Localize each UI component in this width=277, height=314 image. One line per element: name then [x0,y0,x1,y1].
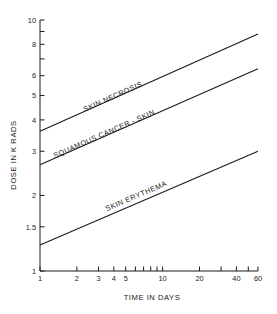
x-tick-label: 1 [38,274,42,283]
y-axis-title: DOSE IN K RADS [9,120,18,189]
series-label-2: SKIN ERYTHEMA [104,179,168,213]
x-axis-tick-labels: 1234510204060 [38,274,262,283]
x-axis-title: TIME IN DAYS [124,293,181,302]
y-tick-label: 10 [28,16,36,25]
y-tick-label: 2 [32,191,36,200]
y-tick-label: 8 [32,40,36,49]
series-labels: SKIN NECROSISSQUAMOUS CANCER - SKINSKIN … [52,79,168,213]
y-tick-label: 3 [32,147,36,156]
y-tick-label: 6 [32,71,36,80]
x-tick-label: 20 [195,274,203,283]
y-tick-label: 4 [32,116,36,125]
series-label-0: SKIN NECROSIS [82,79,144,113]
chart-canvas: 1234510204060 11.523456810 SKIN NECROSIS… [0,0,277,314]
x-tick-label: 10 [158,274,166,283]
y-axis-ticks [40,20,45,271]
log-log-chart: 1234510204060 11.523456810 SKIN NECROSIS… [0,0,277,314]
y-axis-tick-labels: 11.523456810 [26,16,36,276]
y-tick-label: 1.5 [26,223,36,232]
x-tick-label: 3 [96,274,100,283]
x-tick-label: 40 [232,274,240,283]
y-tick-label: 5 [32,91,36,100]
x-tick-label: 60 [254,274,262,283]
x-tick-label: 4 [112,274,116,283]
data-series [40,34,258,245]
x-axis-ticks [40,267,258,272]
x-tick-label: 5 [124,274,128,283]
series-line-2 [40,151,258,245]
series-label-1: SQUAMOUS CANCER - SKIN [52,107,156,160]
y-tick-label: 1 [32,267,36,276]
x-tick-label: 2 [75,274,79,283]
